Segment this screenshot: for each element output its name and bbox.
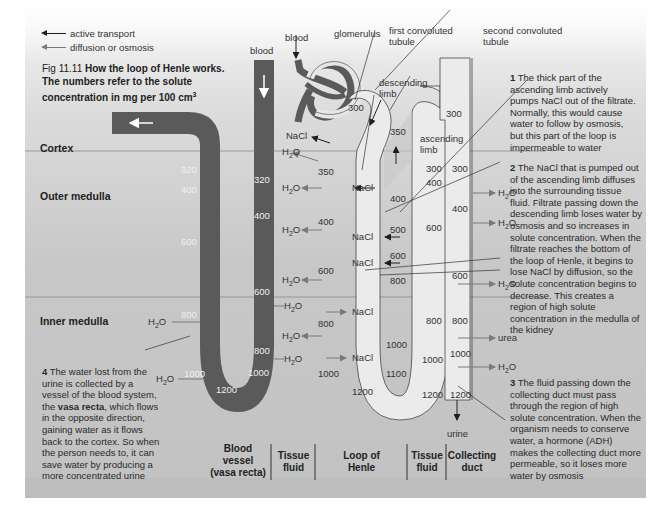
legend-active-transport: active transport	[44, 28, 135, 39]
label-blood-glomerulus: blood	[285, 32, 308, 43]
h2o-label: H2O	[282, 146, 300, 159]
figure-caption: Fig 11.11 How the loop of Henle works. T…	[42, 62, 242, 104]
label-glomerulus: glomerulus	[334, 28, 380, 39]
h2o-label: H2O	[282, 330, 300, 343]
column-tissue-fluid-2: Tissuefluid	[408, 450, 446, 474]
nacl-label: NaCl	[352, 306, 373, 317]
column-collecting-duct: Collectingduct	[447, 450, 497, 474]
label-urine: urine	[447, 428, 468, 439]
column-loop-of-henle: Loop ofHenle	[316, 450, 407, 474]
h2o-label: H2O	[282, 274, 300, 287]
h2o-label: H2O	[284, 353, 302, 366]
light-arrow-icon	[44, 47, 66, 48]
zone-outer-medulla: Outer medulla	[40, 190, 111, 202]
zone-cortex: Cortex	[40, 142, 73, 154]
h2o-label: H2O	[282, 224, 300, 237]
nacl-label: NaCl	[352, 231, 373, 242]
nacl-label: NaCl	[352, 352, 373, 363]
label-first-convoluted: first convolutedtubule	[389, 25, 453, 47]
h2o-label: H2O	[148, 316, 166, 329]
note-2: 2 The NaCl that is pumped out of the asc…	[510, 162, 642, 336]
zone-inner-medulla: Inner medulla	[40, 315, 108, 327]
nacl-label: NaCl	[352, 182, 373, 193]
label-blood-vessel: blood	[250, 45, 273, 56]
label-descending-limb: descendinglimb	[379, 77, 428, 99]
note-1: 1 The thick part of the ascending limb a…	[510, 72, 638, 153]
column-blood-vessel: Bloodvessel(vasa recta)	[205, 443, 271, 479]
h2o-label: H2O	[282, 182, 300, 195]
nacl-label: NaCl	[286, 130, 307, 141]
h2o-label: H2O	[284, 300, 302, 313]
label-ascending-limb: ascendinglimb	[420, 133, 463, 155]
note-4: 4 The water lost from the urine is colle…	[42, 366, 160, 482]
dark-arrow-icon	[44, 33, 66, 34]
label-second-convoluted: second convolutedtubule	[483, 25, 562, 47]
h2o-label: H2O	[498, 361, 516, 374]
nacl-label: NaCl	[352, 257, 373, 268]
legend-diffusion: diffusion or osmosis	[44, 42, 154, 53]
note-3: 3 The fluid passing down the collecting …	[510, 377, 642, 481]
column-tissue-fluid-1: Tissuefluid	[272, 450, 315, 474]
